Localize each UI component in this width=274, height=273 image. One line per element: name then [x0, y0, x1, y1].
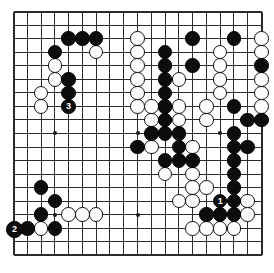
black-stone[interactable] [158, 72, 173, 87]
white-stone[interactable] [185, 167, 200, 182]
grid-line-vertical [123, 12, 124, 256]
black-stone[interactable] [185, 58, 200, 73]
black-stone[interactable] [48, 194, 63, 209]
go-board[interactable]: 312 [0, 0, 274, 273]
white-stone[interactable] [185, 180, 200, 195]
black-stone[interactable] [75, 31, 90, 46]
white-stone[interactable] [172, 99, 187, 114]
black-stone[interactable] [48, 45, 63, 60]
white-stone[interactable] [240, 207, 255, 222]
move-number-label: 3 [62, 100, 75, 113]
black-stone[interactable] [130, 140, 145, 155]
black-stone[interactable] [240, 113, 255, 128]
black-stone[interactable] [61, 72, 76, 87]
white-stone[interactable] [61, 207, 76, 222]
star-point [136, 131, 140, 135]
white-stone[interactable] [254, 99, 269, 114]
white-stone[interactable] [144, 140, 159, 155]
white-stone[interactable] [254, 31, 269, 46]
black-stone[interactable] [158, 58, 173, 73]
white-stone[interactable] [254, 72, 269, 87]
white-stone[interactable] [213, 58, 228, 73]
white-stone[interactable] [172, 113, 187, 128]
black-stone[interactable] [213, 207, 228, 222]
white-stone[interactable] [185, 221, 200, 236]
white-stone[interactable] [199, 99, 214, 114]
black-stone[interactable] [158, 86, 173, 101]
white-stone[interactable] [34, 99, 49, 114]
black-stone[interactable] [254, 58, 269, 73]
black-stone[interactable] [227, 99, 242, 114]
move-stone-2[interactable]: 2 [6, 221, 23, 238]
white-stone[interactable] [34, 221, 49, 236]
black-stone[interactable] [34, 207, 49, 222]
go-board-container: 312 [0, 0, 274, 273]
star-point [218, 131, 222, 135]
black-stone[interactable] [158, 45, 173, 60]
grid-line-vertical [27, 12, 28, 256]
black-stone[interactable] [61, 31, 76, 46]
white-stone[interactable] [144, 99, 159, 114]
grid-line-vertical [192, 12, 193, 256]
black-stone[interactable] [48, 221, 63, 236]
black-stone[interactable] [89, 31, 104, 46]
star-point [53, 131, 57, 135]
white-stone[interactable] [213, 72, 228, 87]
black-stone[interactable] [185, 153, 200, 168]
white-stone[interactable] [199, 113, 214, 128]
black-stone[interactable] [227, 126, 242, 141]
white-stone[interactable] [199, 221, 214, 236]
black-stone[interactable] [158, 99, 173, 114]
white-stone[interactable] [130, 31, 145, 46]
move-stone-3[interactable]: 3 [61, 99, 76, 114]
white-stone[interactable] [144, 113, 159, 128]
white-stone[interactable] [34, 86, 49, 101]
white-stone[interactable] [48, 72, 63, 87]
white-stone[interactable] [213, 45, 228, 60]
black-stone[interactable] [199, 207, 214, 222]
black-stone[interactable] [227, 167, 242, 182]
white-stone[interactable] [254, 45, 269, 60]
black-stone[interactable] [158, 153, 173, 168]
black-stone[interactable] [158, 113, 173, 128]
black-stone[interactable] [172, 140, 187, 155]
black-stone[interactable] [240, 140, 255, 155]
white-stone[interactable] [185, 140, 200, 155]
black-stone[interactable] [34, 180, 49, 195]
white-stone[interactable] [130, 99, 145, 114]
white-stone[interactable] [130, 86, 145, 101]
black-stone[interactable] [227, 31, 242, 46]
black-stone[interactable] [172, 153, 187, 168]
move-stone-1[interactable]: 1 [213, 194, 228, 209]
black-stone[interactable] [185, 31, 200, 46]
white-stone[interactable] [130, 45, 145, 60]
star-point [136, 213, 140, 217]
black-stone[interactable] [144, 126, 159, 141]
white-stone[interactable] [199, 180, 214, 195]
white-stone[interactable] [213, 221, 228, 236]
black-stone[interactable] [227, 207, 242, 222]
star-point [53, 213, 57, 217]
black-stone[interactable] [158, 126, 173, 141]
white-stone[interactable] [227, 221, 242, 236]
black-stone[interactable] [227, 140, 242, 155]
white-stone[interactable] [130, 58, 145, 73]
white-stone[interactable] [158, 167, 173, 182]
white-stone[interactable] [213, 86, 228, 101]
white-stone[interactable] [89, 207, 104, 222]
white-stone[interactable] [185, 194, 200, 209]
white-stone[interactable] [130, 72, 145, 87]
white-stone[interactable] [89, 45, 104, 60]
white-stone[interactable] [172, 194, 187, 209]
white-stone[interactable] [254, 86, 269, 101]
white-stone[interactable] [240, 194, 255, 209]
black-stone[interactable] [172, 126, 187, 141]
black-stone[interactable] [227, 194, 242, 209]
black-stone[interactable] [61, 86, 76, 101]
black-stone[interactable] [227, 180, 242, 195]
white-stone[interactable] [48, 58, 63, 73]
white-stone[interactable] [172, 72, 187, 87]
white-stone[interactable] [75, 207, 90, 222]
black-stone[interactable] [254, 113, 269, 128]
black-stone[interactable] [227, 153, 242, 168]
